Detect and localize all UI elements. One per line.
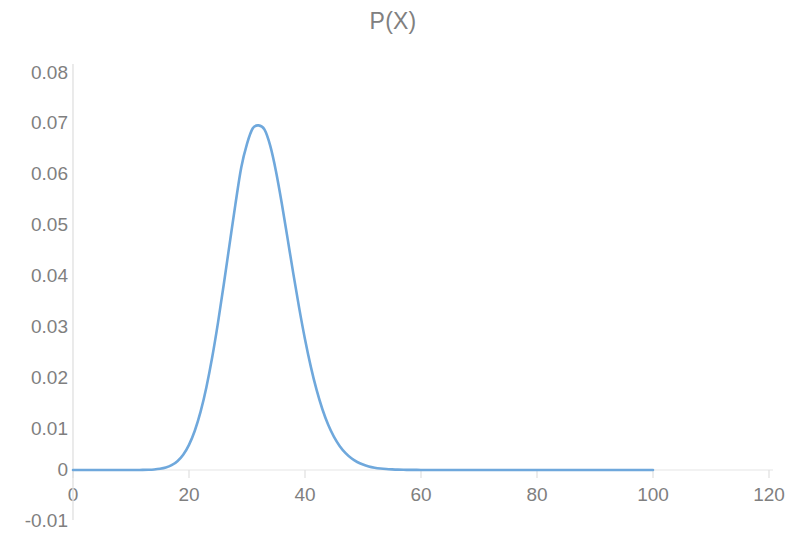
series-line-p-of-x	[73, 125, 653, 470]
chart-container: P(X) 0.08 0.07 0.06 0.05 0.04 0.03 0.02 …	[0, 0, 786, 533]
plot-area	[0, 0, 786, 533]
